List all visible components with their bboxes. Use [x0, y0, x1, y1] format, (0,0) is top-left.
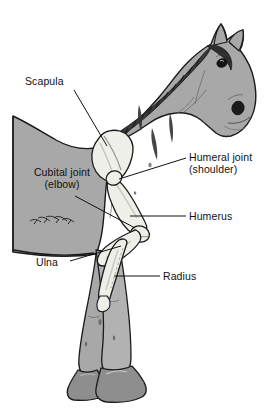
label-humeral-joint: Humeral joint (shoulder) [189, 151, 252, 175]
label-ulna: Ulna [36, 256, 58, 268]
label-cubital-joint-line2: (elbow) [16, 178, 108, 190]
label-humeral-joint-line2: (shoulder) [189, 163, 252, 175]
horse-forelimb-anatomy-figure: Scapula Cubital joint (elbow) Humeral jo… [0, 0, 264, 408]
label-radius: Radius [163, 270, 196, 282]
horse-illustration [0, 0, 264, 408]
label-cubital-joint: Cubital joint (elbow) [16, 166, 108, 190]
label-cubital-joint-line1: Cubital joint [34, 166, 90, 178]
label-humerus: Humerus [189, 210, 232, 222]
label-humeral-joint-line1: Humeral joint [189, 151, 252, 163]
leader-scapula [74, 90, 107, 146]
bone-carpus [97, 296, 110, 312]
ear-left [214, 24, 227, 45]
label-scapula: Scapula [25, 75, 64, 87]
